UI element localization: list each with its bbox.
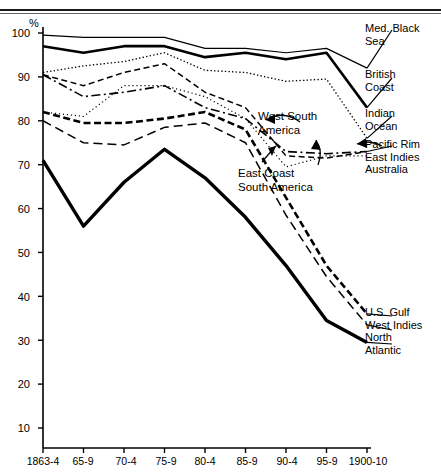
y-tick-40: 40 (4, 292, 30, 303)
series-line-west-indies (43, 121, 367, 325)
x-tick-1900-10: 1900-10 (337, 456, 399, 467)
y-tick-60: 60 (4, 204, 30, 215)
annotation-east-coast-south-america: East Coast South America (238, 167, 313, 194)
legend-med-black-sea: Med. Black Sea (365, 22, 419, 47)
y-tick-20: 20 (4, 379, 30, 390)
y-tick-70: 70 (4, 160, 30, 171)
series-line-north-atlantic (43, 149, 367, 342)
x-tick-80-4: 80-4 (181, 456, 229, 467)
x-tick-65-9: 65-9 (59, 456, 107, 467)
series-line-u-s-gulf (43, 112, 367, 314)
series-line-british-coast (43, 46, 367, 107)
arrow-head-east-coast-south-america (311, 140, 321, 150)
series-line-east-coast-south-america (43, 86, 367, 167)
y-tick-30: 30 (4, 336, 30, 347)
y-tick-10: 10 (4, 423, 30, 434)
legend-indian-ocean: Indian Ocean (365, 107, 397, 132)
legend-pacific-rim: Pacific Rim East Indies Australia (365, 138, 420, 176)
series-line-pacific-rim-east-indies-australia (43, 75, 367, 154)
legend-british-coast: British Coast (365, 68, 396, 93)
annotation-west-south-america: West South America (258, 110, 317, 137)
y-tick-80: 80 (4, 116, 30, 127)
y-tick-100: 100 (4, 28, 30, 39)
y-tick-90: 90 (4, 72, 30, 83)
legend-us-gulf: U.S. Gulf West Indies North Atlantic (365, 306, 422, 356)
chart-figure: % 100 90 80 70 60 50 40 30 20 10 1863-4 … (0, 0, 441, 473)
y-tick-50: 50 (4, 248, 30, 259)
